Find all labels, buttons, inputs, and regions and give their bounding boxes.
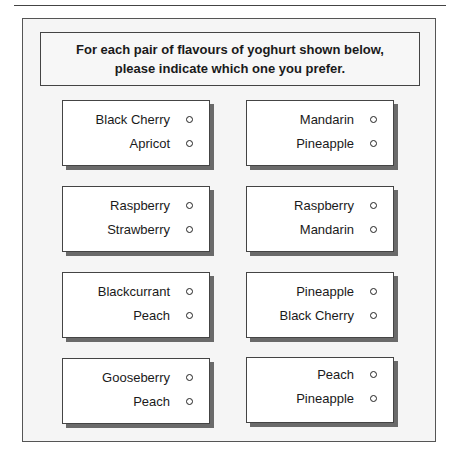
option-label: Peach (317, 367, 354, 382)
option-label: Strawberry (107, 222, 170, 237)
option-row[interactable]: Peach (63, 392, 209, 410)
option-label: Raspberry (294, 198, 354, 213)
pair-card-2: Mandarin Pineapple (246, 100, 394, 166)
radio-button[interactable] (186, 140, 193, 147)
radio-button[interactable] (370, 140, 377, 147)
radio-button[interactable] (186, 202, 193, 209)
instructions-line-2: please indicate which one you prefer. (115, 59, 345, 78)
option-label: Pineapple (296, 136, 354, 151)
option-row[interactable]: Black Cherry (247, 306, 393, 324)
pair-card-1: Black Cherry Apricot (62, 100, 210, 166)
option-row[interactable]: Mandarin (247, 220, 393, 238)
radio-button[interactable] (186, 226, 193, 233)
radio-button[interactable] (370, 395, 377, 402)
option-label: Peach (133, 394, 170, 409)
option-label: Mandarin (300, 222, 354, 237)
radio-button[interactable] (370, 312, 377, 319)
option-row[interactable]: Strawberry (63, 220, 209, 238)
option-label: Pineapple (296, 391, 354, 406)
option-row[interactable]: Raspberry (63, 196, 209, 214)
radio-button[interactable] (186, 116, 193, 123)
pair-card-4: Raspberry Mandarin (246, 186, 394, 252)
option-row[interactable]: Mandarin (247, 110, 393, 128)
option-row[interactable]: Gooseberry (63, 368, 209, 386)
option-label: Raspberry (110, 198, 170, 213)
option-row[interactable]: Peach (247, 365, 393, 383)
option-label: Peach (133, 308, 170, 323)
option-row[interactable]: Pineapple (247, 389, 393, 407)
option-label: Black Cherry (280, 308, 354, 323)
radio-button[interactable] (370, 288, 377, 295)
radio-button[interactable] (370, 371, 377, 378)
option-row[interactable]: Peach (63, 306, 209, 324)
instructions-line-1: For each pair of flavours of yoghurt sho… (76, 40, 384, 59)
instructions-box: For each pair of flavours of yoghurt sho… (40, 32, 420, 86)
radio-button[interactable] (370, 202, 377, 209)
radio-button[interactable] (186, 374, 193, 381)
top-divider (14, 5, 446, 6)
option-row[interactable]: Raspberry (247, 196, 393, 214)
pair-card-5: Blackcurrant Peach (62, 272, 210, 338)
option-label: Blackcurrant (98, 284, 170, 299)
option-row[interactable]: Apricot (63, 134, 209, 152)
option-label: Mandarin (300, 112, 354, 127)
option-label: Gooseberry (102, 370, 170, 385)
option-label: Apricot (130, 136, 170, 151)
pair-card-8: Peach Pineapple (246, 357, 394, 423)
radio-button[interactable] (186, 398, 193, 405)
option-row[interactable]: Pineapple (247, 282, 393, 300)
option-row[interactable]: Pineapple (247, 134, 393, 152)
option-row[interactable]: Black Cherry (63, 110, 209, 128)
radio-button[interactable] (186, 312, 193, 319)
option-label: Pineapple (296, 284, 354, 299)
pair-card-3: Raspberry Strawberry (62, 186, 210, 252)
pair-card-7: Gooseberry Peach (62, 358, 210, 424)
option-row[interactable]: Blackcurrant (63, 282, 209, 300)
pair-card-6: Pineapple Black Cherry (246, 272, 394, 338)
option-label: Black Cherry (96, 112, 170, 127)
radio-button[interactable] (186, 288, 193, 295)
radio-button[interactable] (370, 226, 377, 233)
radio-button[interactable] (370, 116, 377, 123)
